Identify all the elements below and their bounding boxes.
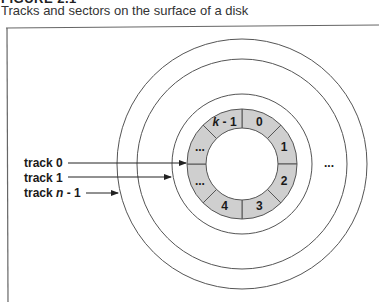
sector-label-6: ...	[195, 140, 205, 154]
frame-top	[6, 25, 379, 28]
track-1-label: track 1	[24, 171, 63, 185]
sector-label-3: 3	[256, 199, 263, 213]
track-0-label: track 0	[24, 156, 63, 170]
disk-diagram: 01234......k - 1 ... track 0 track 1 tra…	[0, 0, 379, 302]
sector-label-0: 0	[256, 115, 263, 129]
frame-left	[7, 28, 8, 302]
track-circle-middle	[137, 59, 347, 269]
sector-label-7: k - 1	[213, 115, 237, 129]
sector-label-1: 1	[281, 140, 288, 154]
track-n-1-label: track n - 1	[24, 186, 81, 200]
sector-ring: 01234......k - 1	[187, 109, 297, 219]
sector-label-4: 4	[221, 199, 228, 213]
sector-label-2: 2	[281, 174, 288, 188]
outer-ellipsis: ...	[324, 156, 334, 170]
sector-label-5: ...	[195, 174, 205, 188]
